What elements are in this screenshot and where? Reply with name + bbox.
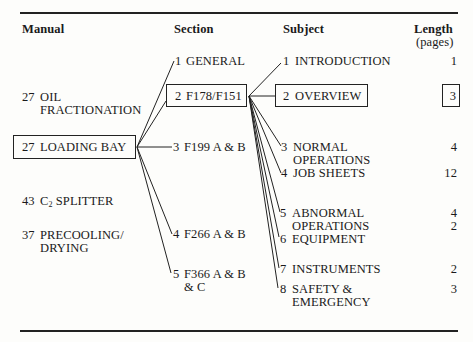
- subject-6-number: 6: [280, 233, 286, 246]
- subject-3-length: 4: [437, 141, 457, 154]
- section-2-number: 2: [175, 90, 181, 103]
- manual-oil-fractionation-label-2: FRACTIONATION: [40, 104, 141, 117]
- connector-lines: [0, 0, 473, 342]
- manual-c2-splitter-number: 43: [22, 195, 35, 208]
- subject-8-number: 8: [280, 283, 286, 296]
- manual-loading-bay-number: 27: [22, 141, 35, 154]
- subject-3-number: 3: [281, 141, 287, 154]
- subject-1-length: 1: [437, 55, 457, 68]
- section-1-number: 1: [175, 55, 181, 68]
- manual-c2-splitter-label: C2 SPLITTER: [40, 195, 114, 211]
- subject-1-number: 1: [283, 55, 289, 68]
- manual-precooling-label-2: DRYING: [40, 242, 89, 255]
- section-2-label: F178/F151: [186, 90, 242, 103]
- subject-2-length: 3: [436, 90, 456, 103]
- subject-8-length: 3: [437, 283, 457, 296]
- subject-2-number: 2: [283, 90, 289, 103]
- section-5-label-2: & C: [184, 281, 206, 294]
- subject-7-length: 2: [437, 263, 457, 276]
- subject-4-number: 4: [281, 167, 287, 180]
- manual-loading-bay-label: LOADING BAY: [40, 141, 126, 154]
- subject-6-label: EQUIPMENT: [292, 233, 365, 246]
- section-3-number: 3: [173, 141, 179, 154]
- subject-4-length: 12: [437, 167, 457, 180]
- section-4-number: 4: [173, 228, 179, 241]
- subject-1-label: INTRODUCTION: [295, 55, 391, 68]
- section-3-label: F199 A & B: [184, 141, 246, 154]
- subject-5-number: 5: [280, 207, 286, 220]
- subject-8-label-2: EMERGENCY: [292, 296, 371, 309]
- subject-5-length-2: 2: [437, 220, 457, 233]
- manual-oil-fractionation-number: 27: [22, 91, 35, 104]
- section-5-number: 5: [173, 268, 179, 281]
- section-4-label: F266 A & B: [184, 228, 246, 241]
- subject-4-label: JOB SHEETS: [293, 167, 365, 180]
- subject-7-label: INSTRUMENTS: [292, 263, 381, 276]
- subject-7-number: 7: [280, 263, 286, 276]
- manual-precooling-number: 37: [22, 229, 35, 242]
- section-1-label: GENERAL: [186, 55, 245, 68]
- subject-2-label: OVERVIEW: [295, 90, 361, 103]
